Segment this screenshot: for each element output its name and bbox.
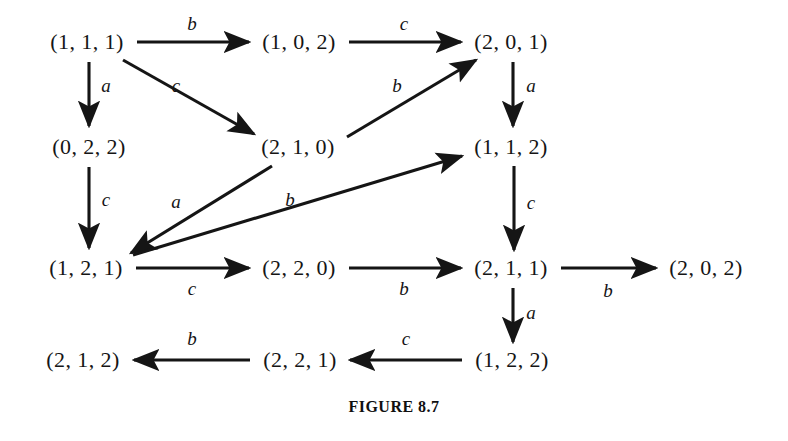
edge-label: c [400,13,408,35]
graph-node[interactable]: (2, 2, 1) [263,347,336,373]
graph-node[interactable]: (2, 0, 2) [669,255,742,281]
edge-label: c [527,192,535,214]
figure-container: (1, 1, 1)(1, 0, 2)(2, 0, 1)(0, 2, 2)(2, … [0,0,788,441]
graph-node[interactable]: (1, 2, 1) [49,255,122,281]
graph-node[interactable]: (1, 2, 2) [475,347,548,373]
edge-label: a [526,75,536,97]
graph-edge [347,60,476,137]
edge-label: b [392,75,402,97]
edge-label: b [603,280,613,302]
edge-label: c [188,278,196,300]
edge-label: a [171,191,181,213]
figure-caption: FIGURE 8.7 [0,398,788,416]
graph-edge [123,60,254,134]
graph-edge [131,166,272,253]
edge-label: a [526,302,536,324]
edge-label: c [172,75,180,97]
edge-label: b [285,189,295,211]
graph-node[interactable]: (1, 0, 2) [262,29,335,55]
graph-node[interactable]: (2, 1, 1) [474,255,547,281]
edge-label: c [402,328,410,350]
graph-node[interactable]: (2, 1, 2) [46,347,119,373]
edge-label: b [187,13,197,35]
graph-node[interactable]: (0, 2, 2) [52,134,125,160]
edge-label: a [101,75,111,97]
edge-label: b [187,328,197,350]
edge-label: c [102,189,110,211]
graph-edge [133,156,462,255]
graph-node[interactable]: (1, 1, 1) [50,29,123,55]
state-transition-graph [0,0,788,441]
graph-node[interactable]: (2, 0, 1) [474,29,547,55]
graph-node[interactable]: (1, 1, 2) [474,134,547,160]
graph-node[interactable]: (2, 2, 0) [262,255,335,281]
graph-node[interactable]: (2, 1, 0) [261,134,334,160]
edge-label: b [399,278,409,300]
